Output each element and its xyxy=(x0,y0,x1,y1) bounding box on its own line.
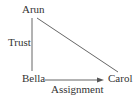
arrowhead-icon xyxy=(97,78,104,83)
node-bella: Bella xyxy=(22,73,45,84)
edge-label-trust: Trust xyxy=(8,37,31,48)
edge-label-assignment: Assignment xyxy=(51,84,104,95)
edge-arun-carol xyxy=(37,18,118,72)
node-carol: Carol xyxy=(108,73,132,84)
node-arun: Arun xyxy=(22,4,45,15)
